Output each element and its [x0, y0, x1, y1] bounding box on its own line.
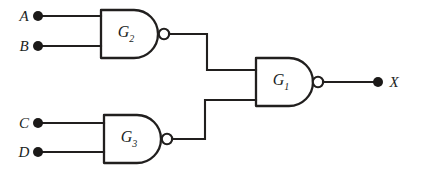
wire-g3-out-to-g1-in2: [172, 100, 256, 139]
gate-g2-inverter-bubble: [159, 29, 169, 39]
gate-label-g2: G2: [118, 24, 135, 43]
circuit-svg-canvas: [0, 0, 424, 176]
wire-g2-out-to-g1-in1: [169, 34, 256, 70]
output-label-x: X: [389, 75, 398, 90]
gate-g1: [256, 58, 323, 106]
input-terminal-dot-c: [33, 118, 43, 128]
input-label-d: D: [19, 145, 30, 160]
gate-label-g3-subscript: 3: [132, 138, 137, 149]
input-label-c: C: [19, 116, 29, 131]
gate-label-g1-letter: G: [273, 71, 285, 88]
gate-g1-inverter-bubble: [313, 77, 323, 87]
input-terminal-dot-a: [33, 11, 43, 21]
gate-label-g1-subscript: 1: [284, 81, 289, 92]
logic-circuit-diagram: A B C D X G2 G3 G1: [0, 0, 424, 176]
gate-g2: [101, 10, 169, 58]
input-label-b: B: [19, 39, 28, 54]
gate-label-g1: G1: [273, 72, 290, 91]
output-terminal-dot-x: [373, 77, 383, 87]
gate-g3: [104, 115, 172, 163]
gate-label-g2-subscript: 2: [129, 33, 134, 44]
gate-g3-inverter-bubble: [162, 134, 172, 144]
input-terminal-dot-b: [33, 41, 43, 51]
input-label-a: A: [19, 9, 28, 24]
gate-label-g3-letter: G: [121, 128, 133, 145]
input-terminal-dot-d: [33, 147, 43, 157]
gate-label-g2-letter: G: [118, 23, 130, 40]
gate-label-g3: G3: [121, 129, 138, 148]
